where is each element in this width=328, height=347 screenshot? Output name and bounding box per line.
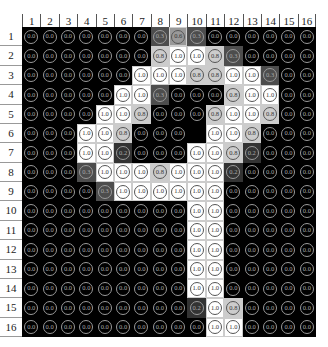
grid-cell: 0.0 bbox=[22, 105, 40, 124]
value-circle: 0.3 bbox=[226, 49, 240, 63]
value-circle: 0.0 bbox=[281, 185, 295, 199]
value-circle: 0.0 bbox=[171, 243, 185, 257]
row-label: 8 bbox=[0, 163, 22, 182]
grid-cell: 0.0 bbox=[40, 182, 58, 201]
value-circle: 0.0 bbox=[263, 320, 277, 334]
grid-cell: 0.0 bbox=[77, 298, 95, 317]
grid-cell: 0.3 bbox=[187, 27, 205, 46]
grid-cell: 1.0 bbox=[187, 260, 205, 279]
value-circle: 0.8 bbox=[263, 107, 277, 121]
value-circle: 1.0 bbox=[208, 185, 222, 199]
value-circle: 0.0 bbox=[79, 282, 93, 296]
grid-cell: 0.0 bbox=[114, 221, 132, 240]
grid-cell: 0.0 bbox=[96, 240, 114, 259]
grid-cell: 0.0 bbox=[298, 66, 316, 85]
grid-cell: 0.0 bbox=[114, 66, 132, 85]
value-circle: 0.0 bbox=[171, 223, 185, 237]
grid-cell: 1.0 bbox=[243, 85, 261, 104]
value-circle: 0.0 bbox=[24, 49, 38, 63]
value-circle: 0.0 bbox=[263, 262, 277, 276]
value-circle: 0.0 bbox=[43, 185, 57, 199]
value-circle: 0.8 bbox=[153, 49, 167, 63]
value-circle: 0.0 bbox=[281, 146, 295, 160]
grid-cell: 0.3 bbox=[261, 66, 279, 85]
value-circle: 0.2 bbox=[116, 146, 130, 160]
column-label: 6 bbox=[114, 14, 132, 28]
row-label: 14 bbox=[0, 279, 22, 298]
value-circle: 1.0 bbox=[116, 185, 130, 199]
grid-cell: 0.0 bbox=[261, 260, 279, 279]
value-circle: 1.0 bbox=[245, 88, 259, 102]
grid-cell: 0.0 bbox=[169, 298, 187, 317]
value-circle: 0.0 bbox=[24, 127, 38, 141]
row-label: 5 bbox=[0, 105, 22, 124]
value-circle: 0.0 bbox=[190, 88, 204, 102]
grid-cell: 0.0 bbox=[77, 66, 95, 85]
value-circle: 0.0 bbox=[98, 320, 112, 334]
value-circle: 1.0 bbox=[116, 165, 130, 179]
grid-cell: 0.0 bbox=[132, 143, 150, 162]
value-circle: 0.0 bbox=[134, 262, 148, 276]
grid-cell: 0.0 bbox=[279, 143, 297, 162]
grid-cell: 0.0 bbox=[77, 221, 95, 240]
value-circle: 0.0 bbox=[226, 282, 240, 296]
grid-cell: 0.0 bbox=[279, 163, 297, 182]
grid-cell: 0.0 bbox=[22, 124, 40, 143]
grid-cell: 0.0 bbox=[59, 298, 77, 317]
grid-cell: 0.0 bbox=[77, 240, 95, 259]
grid-cell: 0.3 bbox=[151, 27, 169, 46]
grid-cell: 0.0 bbox=[298, 279, 316, 298]
row-label: 12 bbox=[0, 240, 22, 259]
value-circle: 0.0 bbox=[300, 127, 314, 141]
value-circle: 0.0 bbox=[116, 204, 130, 218]
grid-cell: 0.0 bbox=[22, 298, 40, 317]
grid-cell: 0.0 bbox=[261, 279, 279, 298]
grid-cell: 0.0 bbox=[77, 201, 95, 220]
value-circle: 0.0 bbox=[263, 165, 277, 179]
grid-cell: 1.0 bbox=[96, 124, 114, 143]
grid-cell: 0.0 bbox=[224, 240, 242, 259]
grid-cell: 0.0 bbox=[22, 221, 40, 240]
value-circle: 0.0 bbox=[245, 262, 259, 276]
grid-cell: 1.0 bbox=[151, 66, 169, 85]
grid-cell: 0.0 bbox=[169, 143, 187, 162]
value-circle: 0.8 bbox=[116, 127, 130, 141]
value-circle: 0.0 bbox=[43, 107, 57, 121]
value-circle: 0.0 bbox=[24, 301, 38, 315]
column-label: 2 bbox=[40, 14, 58, 28]
value-circle: 1.0 bbox=[134, 165, 148, 179]
grid-cell: 0.0 bbox=[77, 85, 95, 104]
column-label: 1 bbox=[22, 14, 40, 28]
grid-cell: 1.0 bbox=[224, 124, 242, 143]
grid-cell: 0.0 bbox=[279, 46, 297, 65]
value-circle: 0.0 bbox=[263, 30, 277, 44]
value-circle: 0.0 bbox=[281, 243, 295, 257]
grid-cell: 1.0 bbox=[114, 85, 132, 104]
grid-cell: 0.0 bbox=[279, 85, 297, 104]
grid-cell: 1.0 bbox=[151, 182, 169, 201]
value-circle: 1.0 bbox=[208, 127, 222, 141]
value-circle: 1.0 bbox=[208, 223, 222, 237]
value-circle: 0.0 bbox=[79, 204, 93, 218]
value-circle: 0.6 bbox=[171, 30, 185, 44]
grid-cell: 1.0 bbox=[206, 143, 224, 162]
value-circle: 0.0 bbox=[245, 49, 259, 63]
grid-cell: 0.0 bbox=[59, 318, 77, 337]
grid-cell: 1.0 bbox=[114, 105, 132, 124]
value-circle: 1.0 bbox=[208, 282, 222, 296]
grid-cell: 0.0 bbox=[151, 260, 169, 279]
value-circle: 0.8 bbox=[190, 68, 204, 82]
value-circle: 0.0 bbox=[24, 30, 38, 44]
grid-cell: 0.0 bbox=[40, 66, 58, 85]
value-circle: 0.8 bbox=[226, 146, 240, 160]
grid-cell: 0.0 bbox=[187, 318, 205, 337]
grid-cell: 0.0 bbox=[77, 260, 95, 279]
value-circle: 0.0 bbox=[300, 243, 314, 257]
grid-cell: 0.0 bbox=[96, 298, 114, 317]
grid-cell: 0.0 bbox=[114, 27, 132, 46]
value-circle: 0.0 bbox=[300, 49, 314, 63]
value-circle: 0.0 bbox=[24, 282, 38, 296]
grid-cell: 1.0 bbox=[169, 163, 187, 182]
grid-cell: 0.0 bbox=[261, 163, 279, 182]
grid-cell: 0.0 bbox=[59, 27, 77, 46]
